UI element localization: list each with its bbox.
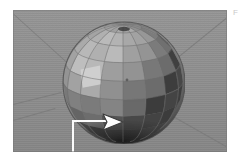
grid-line-bottom-left	[13, 108, 55, 121]
sphere-facet	[100, 80, 123, 100]
sphere-facet	[123, 62, 145, 82]
3d-viewport[interactable]	[13, 10, 227, 152]
sphere-facet	[123, 80, 146, 100]
leader-line-vertical	[72, 120, 74, 152]
grid-line-mid-left	[13, 92, 62, 105]
corner-label: F	[233, 8, 238, 18]
screenshot-page: F	[0, 0, 240, 166]
sphere-facet	[101, 62, 123, 82]
pointer-arrow-icon	[101, 112, 125, 132]
